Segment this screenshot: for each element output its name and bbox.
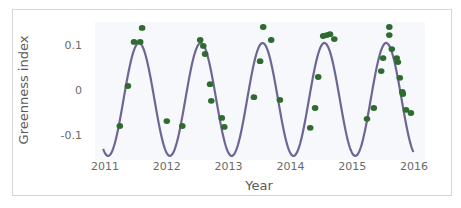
data-point	[268, 37, 275, 43]
data-point	[331, 36, 338, 42]
data-point	[221, 124, 228, 130]
x-tick-label: 2015	[338, 160, 366, 173]
x-tick-label: 2011	[91, 160, 119, 173]
data-point	[197, 37, 204, 43]
data-point	[117, 123, 124, 129]
data-point	[380, 55, 387, 61]
data-point	[131, 39, 138, 45]
data-point	[386, 32, 393, 38]
data-point	[312, 105, 319, 111]
data-point	[200, 43, 207, 49]
data-point	[257, 58, 264, 64]
data-point	[378, 68, 385, 74]
data-point	[364, 116, 371, 122]
data-point	[400, 91, 407, 97]
data-point	[139, 25, 146, 31]
data-point	[397, 75, 404, 81]
data-point	[277, 97, 284, 103]
data-point	[408, 110, 415, 116]
y-tick-label: 0.1	[65, 39, 83, 52]
data-point	[219, 115, 226, 121]
x-tick-label: 2012	[153, 160, 181, 173]
data-point	[251, 94, 258, 100]
data-point	[164, 118, 171, 124]
data-point	[179, 123, 186, 129]
data-point	[202, 51, 209, 57]
data-point	[260, 24, 267, 30]
data-point	[207, 81, 214, 87]
data-point	[386, 24, 393, 30]
data-point	[125, 83, 132, 89]
data-point	[137, 39, 144, 45]
plot-area	[95, 22, 425, 160]
data-point	[327, 31, 334, 37]
data-point	[395, 59, 402, 65]
data-point	[208, 98, 215, 104]
data-point	[307, 125, 314, 131]
data-point	[389, 46, 396, 52]
x-axis-label: Year	[244, 178, 273, 193]
x-axis-ticks: 201120122013201420152016	[91, 160, 428, 173]
data-point	[371, 105, 378, 111]
greenness-chart: 0.10-0.1 201120122013201420152016 Year G…	[0, 0, 461, 208]
y-axis-label: Greenness index	[16, 35, 31, 144]
x-tick-label: 2014	[276, 160, 304, 173]
y-tick-label: -0.1	[61, 129, 82, 142]
y-tick-label: 0	[75, 84, 82, 97]
data-point	[315, 74, 322, 80]
x-tick-label: 2013	[215, 160, 243, 173]
x-tick-label: 2016	[400, 160, 428, 173]
y-axis-ticks: 0.10-0.1	[61, 39, 82, 142]
